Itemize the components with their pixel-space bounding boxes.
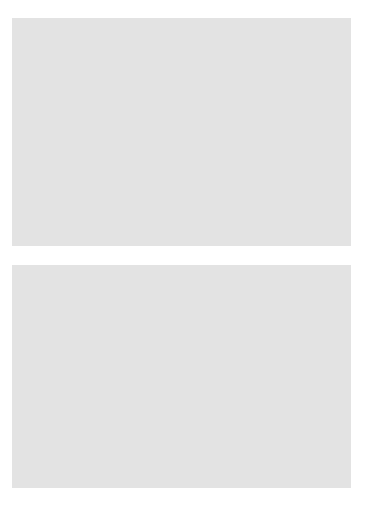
scatter-plot-top: [12, 18, 351, 246]
chart-panel-bottom: [12, 265, 351, 488]
chart-panel-top: [12, 18, 351, 246]
figure-container: [0, 0, 375, 513]
scatter-plot-bottom: [12, 265, 351, 488]
